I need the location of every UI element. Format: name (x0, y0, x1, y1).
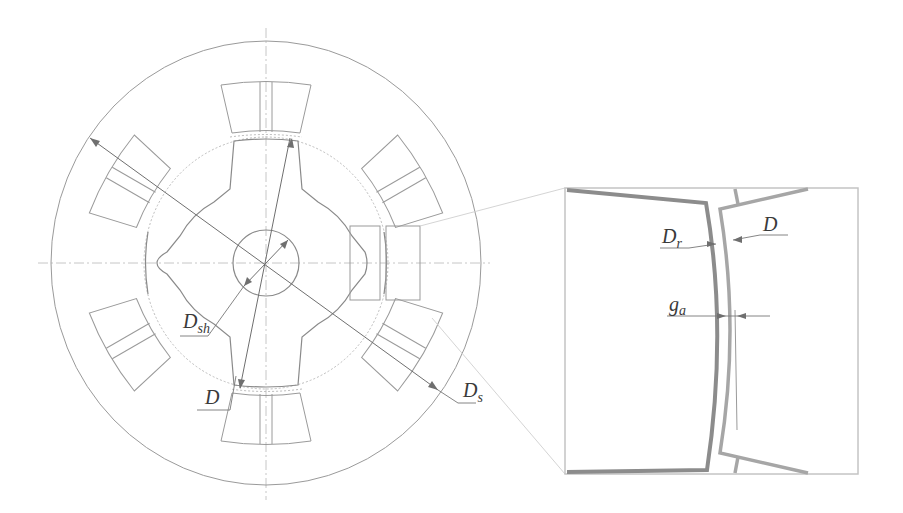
label-d: D (204, 386, 220, 408)
label-ds: Ds (462, 379, 483, 405)
stator-pole-bottom-left (86, 289, 176, 393)
arrowhead-icon (238, 379, 245, 389)
motor-diagram: Dsh D Ds Dr D ga (0, 0, 903, 513)
arrowhead-icon (90, 138, 100, 147)
projection-line-top (420, 188, 565, 226)
label-dsh: Dsh (182, 310, 210, 336)
projection-line-bottom (432, 318, 565, 474)
diagram-canvas: Dsh D Ds Dr D ga (0, 0, 903, 513)
label-d-detail: D (762, 213, 778, 235)
air-gap-detail: Dr D ga (565, 188, 858, 474)
stator-pole-top-right (356, 133, 446, 237)
main-cross-section: Dsh D Ds (38, 28, 490, 500)
arrowhead-icon (428, 381, 438, 390)
bore-diameter-dimension-line (240, 138, 290, 388)
stator-pole-top-left (86, 133, 176, 237)
